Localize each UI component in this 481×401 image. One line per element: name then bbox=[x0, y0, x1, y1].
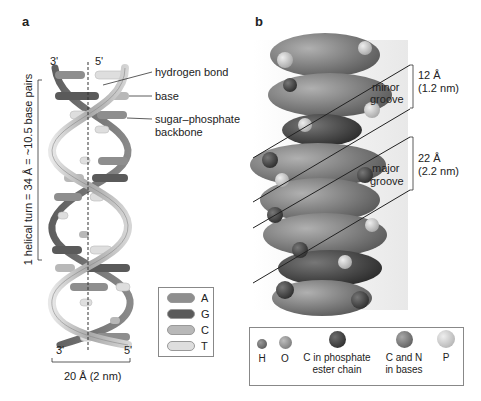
legend-item-c: C bbox=[167, 324, 209, 336]
hydrogen-atom-icon bbox=[257, 339, 267, 349]
minor-groove-label-2: groove bbox=[370, 93, 404, 106]
minor-groove-size-2: (1.2 nm) bbox=[418, 82, 459, 95]
width-bracket bbox=[52, 358, 130, 362]
major-groove-label-1: major bbox=[372, 162, 400, 175]
strand-end-top-left: 3' bbox=[50, 55, 58, 68]
major-groove-size-2: (2.2 nm) bbox=[418, 165, 459, 178]
legend-item-g: G bbox=[167, 308, 210, 320]
atom-legend-c-n-bases: C and N in bases bbox=[382, 331, 426, 376]
nucleotide-swatch-g bbox=[167, 309, 195, 319]
carbon-phosphate-atom-icon bbox=[329, 331, 346, 348]
oxygen-atom-icon bbox=[279, 336, 292, 349]
legend-item-a: A bbox=[167, 292, 208, 304]
backbone-leader bbox=[127, 118, 152, 119]
helical-turn-label: 1 helical turn = 34 Å = ~10.5 base pairs bbox=[22, 70, 35, 270]
nucleotide-swatch-a bbox=[167, 293, 195, 303]
atom-legend-p: P bbox=[434, 330, 458, 364]
nucleotide-swatch-t bbox=[167, 341, 195, 351]
minor-groove-size-1: 12 Å bbox=[418, 69, 441, 82]
strand-end-bottom-left: 3' bbox=[56, 344, 64, 357]
nucleotide-legend: A G C T bbox=[158, 287, 214, 357]
atom-legend: H O C in phosphate ester chain C and N i… bbox=[249, 327, 464, 386]
carbon-nitrogen-atom-icon bbox=[396, 331, 413, 348]
minor-groove-bracket bbox=[410, 65, 413, 108]
backbone-label-line2: backbone bbox=[155, 126, 203, 139]
legend-label-t: T bbox=[201, 340, 208, 352]
atom-legend-o: O bbox=[274, 334, 296, 365]
major-groove-size-1: 22 Å bbox=[418, 152, 441, 165]
major-groove-label-2: groove bbox=[370, 175, 404, 188]
phosphorus-atom-icon bbox=[437, 330, 455, 348]
backbone-label-line1: sugar–phosphate bbox=[155, 113, 240, 126]
major-groove-bracket bbox=[410, 137, 413, 190]
strand-end-bottom-right: 5' bbox=[124, 344, 132, 357]
legend-label-a: A bbox=[201, 292, 208, 304]
nucleotide-swatch-c bbox=[167, 325, 195, 335]
base-label: base bbox=[155, 90, 179, 103]
width-label: 20 Å (2 nm) bbox=[64, 370, 121, 383]
hydrogen-bond-label: hydrogen bond bbox=[155, 66, 228, 79]
atom-legend-h: H bbox=[252, 336, 272, 365]
legend-item-t: T bbox=[167, 340, 208, 352]
strand-end-top-right: 5' bbox=[95, 55, 103, 68]
helical-turn-bracket bbox=[38, 80, 42, 260]
legend-label-g: G bbox=[201, 308, 210, 320]
atom-legend-c-phosphate: C in phosphate ester chain bbox=[298, 331, 376, 376]
legend-label-c: C bbox=[201, 324, 209, 336]
